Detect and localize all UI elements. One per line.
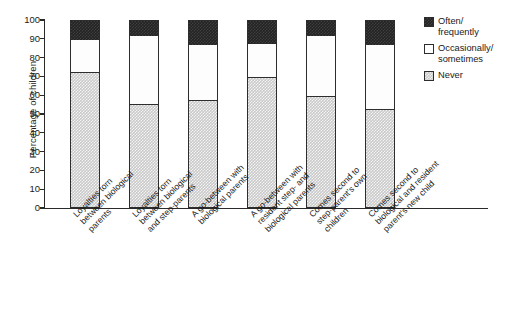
- y-tick-label-wrap: 70: [10, 71, 40, 81]
- y-tick-label-wrap: 20: [10, 165, 40, 175]
- bar-segment-occasionally: [189, 43, 217, 99]
- legend-label-often: Often/ frequently: [438, 16, 479, 37]
- y-tick-label-wrap: 0: [10, 203, 40, 213]
- legend-label-occasionally: Occasionally/ sometimes: [438, 43, 493, 64]
- bar-segment-occasionally: [366, 43, 394, 109]
- y-tick-label: 60: [14, 90, 40, 100]
- legend-item-often: Often/ frequently: [424, 16, 512, 37]
- chart-legend: Often/ frequently Occasionally/ sometime…: [424, 16, 512, 87]
- y-tick-mark: [40, 132, 45, 133]
- y-tick-label: 0: [14, 203, 40, 213]
- y-tick-mark: [40, 151, 45, 152]
- y-tick-label: 70: [14, 71, 40, 81]
- y-tick-label-wrap: 10: [10, 184, 40, 194]
- y-tick-label-wrap: 30: [10, 147, 40, 157]
- y-tick-label: 100: [14, 15, 40, 25]
- y-tick-label: 90: [14, 34, 40, 44]
- y-tick-label-wrap: 90: [10, 34, 40, 44]
- stacked-bar: [247, 20, 277, 208]
- legend-item-never: Never: [424, 70, 512, 81]
- y-tick-mark: [40, 57, 45, 58]
- y-tick-mark: [40, 19, 45, 20]
- y-tick-mark: [40, 170, 45, 171]
- bar-segment-occasionally: [248, 42, 276, 78]
- y-tick-label: 20: [14, 165, 40, 175]
- legend-label-never: Never: [438, 70, 463, 81]
- y-tick-label-wrap: 50: [10, 109, 40, 119]
- bar-segment-occasionally: [71, 38, 99, 72]
- bar-segment-occasionally: [130, 34, 158, 104]
- y-tick-label: 10: [14, 184, 40, 194]
- often-swatch-icon: [424, 17, 434, 27]
- y-tick-mark: [40, 189, 45, 190]
- bar-segment-often: [366, 21, 394, 45]
- occasionally-swatch-icon: [424, 44, 434, 54]
- stacked-bar: [70, 20, 100, 208]
- y-tick-label: 30: [14, 147, 40, 157]
- y-tick-mark: [40, 95, 45, 96]
- bar-segment-occasionally: [307, 34, 335, 96]
- y-tick-label-wrap: 40: [10, 128, 40, 138]
- bar-segment-often: [189, 21, 217, 45]
- bar-segment-often: [248, 21, 276, 44]
- y-tick-label: 80: [14, 53, 40, 63]
- bar-segment-often: [71, 21, 99, 40]
- y-tick-label-wrap: 80: [10, 53, 40, 63]
- y-tick-label: 50: [14, 109, 40, 119]
- y-tick-mark: [40, 76, 45, 77]
- bar-segment-often: [130, 21, 158, 36]
- stacked-bar-chart: Percentage of children 10090807060504030…: [0, 0, 512, 325]
- y-tick-label-wrap: 100: [10, 15, 40, 25]
- never-swatch-icon: [424, 71, 434, 81]
- y-tick-label-wrap: 60: [10, 90, 40, 100]
- y-tick-mark: [40, 113, 45, 114]
- legend-item-occasionally: Occasionally/ sometimes: [424, 43, 512, 64]
- y-tick-label: 40: [14, 128, 40, 138]
- bar-segment-often: [307, 21, 335, 36]
- y-tick-mark: [40, 38, 45, 39]
